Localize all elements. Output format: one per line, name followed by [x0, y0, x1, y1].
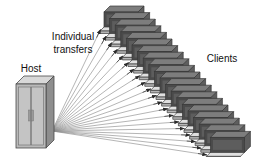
client-top-face [194, 112, 234, 118]
client-top-face [210, 131, 250, 137]
client-top-face [138, 46, 178, 52]
transfers-label-line2: transfers [54, 44, 93, 55]
host-label: Host [21, 63, 42, 74]
host-side-face [46, 76, 54, 148]
client-top-face [110, 13, 150, 19]
client-top-face [199, 118, 239, 124]
client-top-face [188, 105, 228, 111]
host-handle-right [32, 110, 34, 121]
client-top-face [166, 79, 206, 85]
client-top-face [104, 6, 144, 12]
client-top-face [171, 85, 211, 91]
diagram-canvas: Host Individual transfers Clients [0, 0, 263, 157]
client-screen-inner [213, 140, 242, 150]
client-top-face [205, 125, 245, 131]
client-top-face [132, 39, 172, 45]
clients-label: Clients [207, 53, 238, 64]
client-top-face [177, 92, 217, 98]
client-machine [206, 131, 250, 157]
client-top-face [126, 32, 166, 38]
client-top-face [154, 65, 194, 71]
transfers-label-line1: Individual [52, 31, 94, 42]
client-top-face [160, 72, 200, 78]
host-handle-left [28, 110, 30, 121]
client-top-face [182, 98, 222, 104]
client-base-front [206, 156, 240, 157]
network-diagram: Host Individual transfers Clients [0, 0, 263, 157]
host-machine [16, 76, 54, 148]
client-top-face [115, 19, 155, 25]
client-top-face [121, 26, 161, 32]
client-top-face [149, 59, 189, 65]
client-top-face [143, 52, 183, 58]
